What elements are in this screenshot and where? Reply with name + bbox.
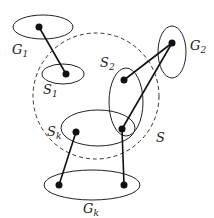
- label-g1: G1: [12, 42, 28, 59]
- g2-ellipse: [158, 26, 186, 78]
- vertex-g2: [169, 40, 176, 47]
- edge-sk-gk-left: [59, 132, 76, 185]
- vertex-gk-right: [121, 182, 128, 189]
- edge-sk-gk-right: [122, 129, 124, 185]
- label-s: S: [156, 130, 165, 145]
- label-sk: Sk: [47, 124, 61, 141]
- diagram: G1 S1 G2 S2 Sk Gk S: [0, 0, 214, 218]
- edge-g1-s1: [39, 27, 66, 74]
- label-gk: Gk: [83, 201, 99, 218]
- edge-g2-sk: [122, 43, 172, 129]
- label-g2: G2: [190, 38, 206, 55]
- vertex-sk-right: [119, 126, 126, 133]
- vertex-gk-left: [56, 182, 63, 189]
- vertex-s1: [63, 71, 70, 78]
- vertex-s2: [121, 77, 128, 84]
- label-s1: S1: [43, 82, 58, 99]
- label-s2: S2: [100, 55, 115, 72]
- vertex-sk-left: [73, 129, 80, 136]
- vertex-g1: [36, 24, 43, 31]
